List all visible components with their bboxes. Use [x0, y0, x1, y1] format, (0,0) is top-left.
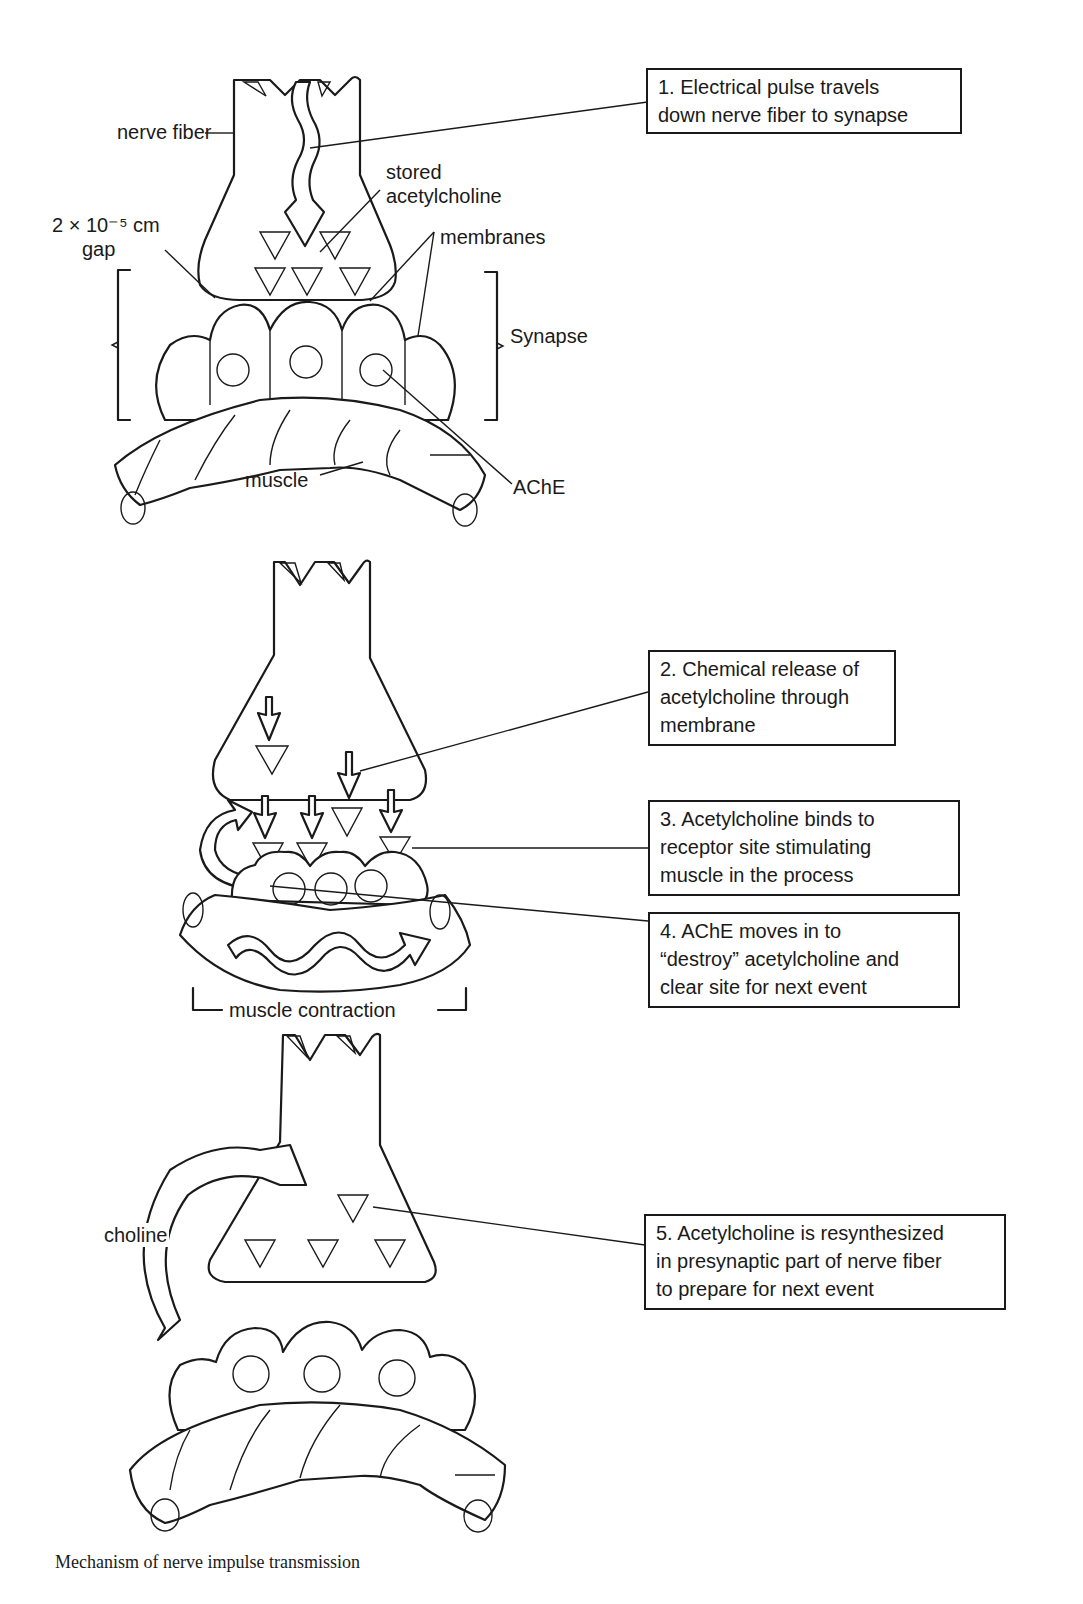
label-muscle: muscle: [245, 468, 308, 492]
label-muscle-contraction: muscle contraction: [225, 998, 400, 1022]
step-2-callout: 2. Chemical release of acetylcholine thr…: [648, 650, 896, 746]
step-3-line-3: muscle in the process: [660, 861, 948, 889]
nerve-terminal: [213, 561, 426, 800]
label-nerve-fiber: nerve fiber: [117, 120, 212, 144]
panel-2-transmission: [180, 561, 648, 1010]
label-stored-acetylcholine-line2: acetylcholine: [386, 184, 502, 208]
step-2-line-1: 2. Chemical release of: [660, 655, 884, 683]
step-2-line-3: membrane: [660, 711, 884, 739]
step-5-callout: 5. Acetylcholine is resynthesized in pre…: [644, 1214, 1006, 1310]
step-2-line-2: acetylcholine through: [660, 683, 884, 711]
step-4-line-2: “destroy” acetylcholine and: [660, 945, 948, 973]
step-5-line-2: in presynaptic part of nerve fiber: [656, 1247, 994, 1275]
step-3-line-1: 3. Acetylcholine binds to: [660, 805, 948, 833]
step-4-callout: 4. AChE moves in to “destroy” acetylchol…: [648, 912, 960, 1008]
step-3-line-2: receptor site stimulating: [660, 833, 948, 861]
panel-3-resynthesis: [130, 1034, 645, 1532]
label-gap: gap: [82, 237, 115, 261]
label-ache: AChE: [513, 475, 565, 499]
nerve-impulse-diagram: nerve fiber stored acetylcholine 2 × 10⁻…: [0, 0, 1083, 1604]
label-stored-acetylcholine-line1: stored: [386, 160, 442, 184]
figure-caption: Mechanism of nerve impulse transmission: [55, 1552, 360, 1573]
label-gap-size: 2 × 10⁻⁵ cm: [52, 213, 160, 237]
label-choline: choline: [102, 1223, 169, 1247]
label-synapse: Synapse: [510, 324, 588, 348]
postsynaptic-membrane: [232, 852, 428, 905]
step-5-line-1: 5. Acetylcholine is resynthesized: [656, 1219, 994, 1247]
step-1-line-2: down nerve fiber to synapse: [658, 101, 950, 129]
step-4-line-1: 4. AChE moves in to: [660, 917, 948, 945]
step-1-line-1: 1. Electrical pulse travels: [658, 73, 950, 101]
step-5-line-3: to prepare for next event: [656, 1275, 994, 1303]
step-4-line-3: clear site for next event: [660, 973, 948, 1001]
label-membranes: membranes: [440, 225, 546, 249]
panel-1-resting-synapse: [112, 77, 655, 526]
step-1-callout: 1. Electrical pulse travels down nerve f…: [646, 68, 962, 134]
step-3-callout: 3. Acetylcholine binds to receptor site …: [648, 800, 960, 896]
